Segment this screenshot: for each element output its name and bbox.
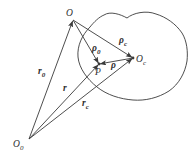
point-P-label: P (94, 67, 101, 77)
diagram-svg: r0rrcρ0ρcρOO0OcP (0, 0, 193, 161)
point-Oc-label: Oc (136, 54, 147, 67)
vector-rho-label: ρ (110, 60, 116, 70)
point-O-label: O (66, 8, 73, 18)
vector-r0-line (29, 21, 73, 139)
point-O0-label: O0 (13, 139, 24, 152)
vector-rc-label: rc (82, 98, 89, 111)
vector-rho-line (100, 58, 133, 64)
vector-r-label: r (63, 83, 67, 93)
vector-r0-label: r0 (38, 66, 46, 79)
vector-diagram-figure: r0rrcρ0ρcρOO0OcP (0, 0, 193, 161)
point-P-dot (98, 63, 101, 66)
point-Oc-dot (132, 57, 135, 60)
vector-rhoc-label: ρc (118, 35, 127, 48)
vector-rho0-line (73, 20, 98, 63)
